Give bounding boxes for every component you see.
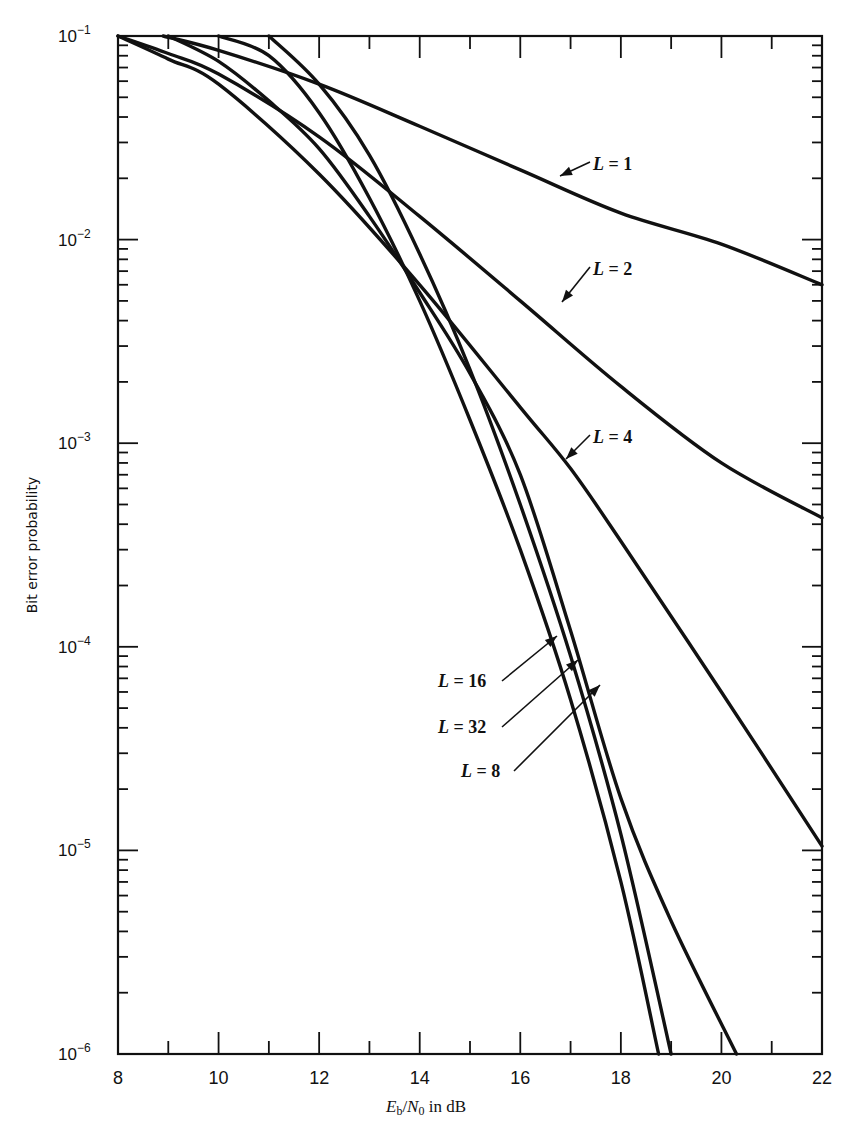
arrow-leader [502, 660, 578, 727]
x-tick-label: 16 [510, 1068, 530, 1088]
x-tick-label: 12 [309, 1068, 329, 1088]
x-axis-label: Eb/N0 in dB [385, 1097, 466, 1118]
x-tick-label: 10 [209, 1068, 229, 1088]
curve-labels: L = 1L = 2L = 4L = 8L = 16L = 32 [437, 154, 632, 781]
curve-label-text: L = 1 [592, 154, 632, 174]
label-L-1: L = 1 [560, 154, 632, 176]
curve-L-8 [168, 36, 736, 1054]
bit-error-probability-chart: 10−110−210−310−410−510−6 810121416182022… [0, 0, 852, 1130]
curve-L-16 [219, 36, 659, 1054]
curve-label-text: L = 4 [592, 427, 632, 447]
plot-border [118, 36, 822, 1054]
x-tick-label: 8 [113, 1068, 123, 1088]
x-tick-label: 14 [410, 1068, 430, 1088]
arrowhead-icon [562, 290, 573, 302]
curve-label-text: L = 16 [437, 671, 486, 691]
label-L-4: L = 4 [566, 427, 632, 459]
x-tick-label: 20 [711, 1068, 731, 1088]
y-tick-label: 10−3 [58, 430, 91, 453]
y-tick-label: 10−5 [58, 837, 91, 860]
curve-L-1 [163, 36, 822, 285]
plot-frame [118, 36, 822, 1054]
curve-L-2 [118, 36, 822, 518]
y-tick-label: 10−4 [58, 634, 91, 657]
curves [118, 36, 822, 1054]
y-tick-label: 10−2 [58, 227, 91, 250]
curve-L-32 [269, 36, 671, 1054]
curve-label-text: L = 32 [437, 717, 486, 737]
y-axis-label: Bit error probability [24, 477, 40, 613]
curve-label-text: L = 2 [592, 259, 632, 279]
y-tick-label: 10−6 [58, 1041, 91, 1064]
label-L-16: L = 16 [437, 636, 557, 691]
x-axis-ticks: 810121416182022 [113, 36, 832, 1088]
y-tick-label: 10−1 [58, 23, 91, 46]
x-tick-label: 22 [812, 1068, 832, 1088]
curve-label-text: L = 8 [460, 761, 500, 781]
x-tick-label: 18 [611, 1068, 631, 1088]
label-L-2: L = 2 [562, 259, 632, 302]
arrowhead-icon [560, 167, 573, 176]
y-axis-ticks: 10−110−210−310−410−510−6 [58, 23, 822, 1064]
